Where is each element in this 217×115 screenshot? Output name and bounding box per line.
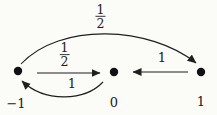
fraction-numerator: 1 <box>61 40 69 55</box>
arrow-0-to-minus1 <box>22 81 103 97</box>
state-label-0: 0 <box>110 95 118 110</box>
probability-fraction-top: 1 2 <box>96 2 106 31</box>
state-dot-minus1 <box>14 67 22 75</box>
markov-chain-diagram: 1 2 1 2 1 1 −1 0 1 <box>0 0 217 115</box>
probability-fraction-middle: 1 2 <box>60 40 70 69</box>
state-label-minus1: −1 <box>6 96 25 111</box>
fraction-denominator: 2 <box>97 16 105 31</box>
arrow-minus1-to-1 <box>21 34 196 64</box>
probability-label-0-to-minus1: 1 <box>68 76 76 91</box>
state-dot-1 <box>197 68 205 76</box>
fraction-numerator: 1 <box>97 2 105 17</box>
state-label-1: 1 <box>197 94 205 109</box>
probability-label-1-to-0: 1 <box>158 50 166 65</box>
state-dot-0 <box>110 68 118 76</box>
fraction-denominator: 2 <box>61 54 69 69</box>
markov-chain-figure: 1 2 1 2 1 1 −1 0 1 <box>0 0 217 115</box>
